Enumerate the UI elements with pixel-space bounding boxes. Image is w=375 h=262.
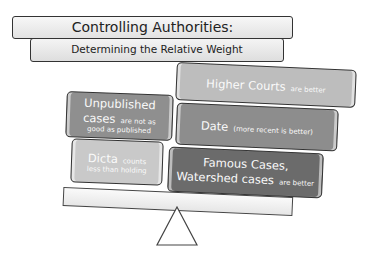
- diagram-subtitle: Determining the Relative Weight: [30, 38, 284, 62]
- subtitle-text: Determining the Relative Weight: [71, 44, 242, 55]
- weight-detail-2: good as published: [87, 126, 151, 136]
- weight-unpublished-cases: Unpublished cases are not as good as pub…: [65, 91, 174, 141]
- weight-detail: are better: [279, 179, 314, 189]
- fulcrum-triangle-icon: [155, 205, 199, 247]
- weight-detail: (more recent is better): [233, 125, 313, 136]
- weight-dicta: Dicta counts less than holding: [70, 138, 163, 185]
- weight-higher-courts: Higher Courts are better: [175, 62, 356, 108]
- weight-date: Date (more recent is better): [175, 102, 339, 151]
- weight-emphasis: Date: [201, 118, 229, 133]
- weight-detail: less than holding: [87, 166, 147, 175]
- diagram-title: Controlling Authorities:: [12, 16, 293, 39]
- title-text: Controlling Authorities:: [72, 20, 234, 35]
- weight-detail: are better: [290, 85, 325, 95]
- weight-emphasis: Dicta: [88, 151, 118, 166]
- weight-emphasis: Higher Courts: [206, 76, 286, 93]
- weight-famous-cases: Famous Cases, Watershed cases are better: [167, 147, 324, 199]
